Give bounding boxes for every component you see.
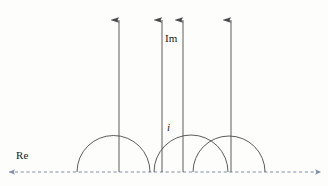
real-axis-label: Re xyxy=(16,150,29,161)
geodesic-diagram xyxy=(0,0,328,186)
imaginary-axis-label: Im xyxy=(165,33,178,44)
figure-background xyxy=(0,0,328,186)
imaginary-unit-label: i xyxy=(167,122,170,133)
figure-canvas: Re Im i xyxy=(0,0,328,186)
